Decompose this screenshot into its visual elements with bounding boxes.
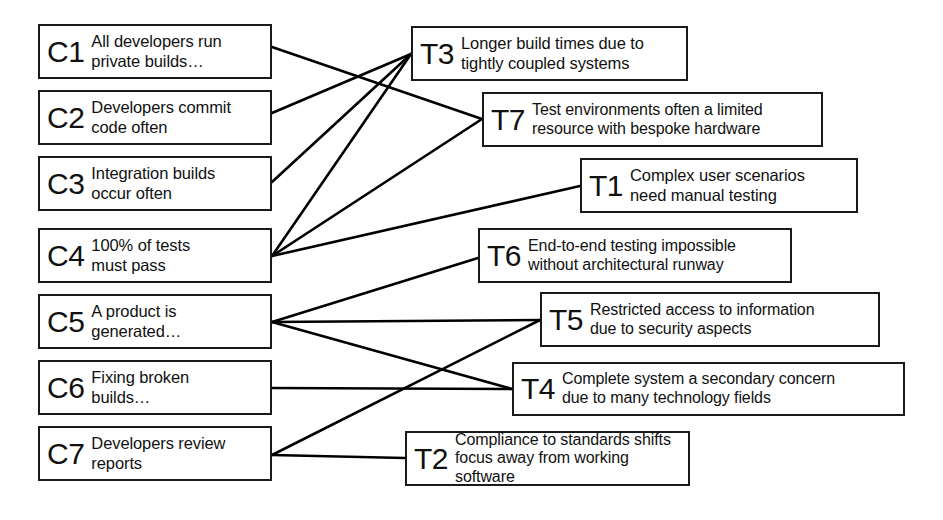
practice-node-c4[interactable]: C4100% of tests must pass [38,228,272,283]
node-code: T4 [521,374,562,404]
challenge-node-t7[interactable]: T7Test environments often a limited reso… [482,92,823,147]
practice-node-c6[interactable]: C6Fixing broken builds… [38,360,272,415]
node-code: T2 [414,444,455,474]
node-code: C5 [47,307,91,337]
challenge-node-t2[interactable]: T2Compliance to standards shifts focus a… [405,431,690,486]
edge-c2-to-t3 [272,54,411,113]
node-description: Fixing broken builds… [91,368,264,406]
node-code: C3 [47,169,91,199]
edge-c6-to-t4 [272,388,512,389]
edge-c3-to-t3 [272,54,411,182]
practice-node-c3[interactable]: C3Integration builds occur often [38,156,272,211]
practice-node-c1[interactable]: C1All developers run private builds… [38,24,272,79]
node-code: C7 [47,439,91,469]
challenge-node-t1[interactable]: T1Complex user scenarios need manual tes… [580,158,858,213]
node-code: C4 [47,241,91,271]
challenge-node-t4[interactable]: T4Complete system a secondary concern du… [512,362,905,416]
practice-node-c2[interactable]: C2Developers commit code often [38,90,272,145]
node-description: Developers commit code often [91,98,264,136]
edge-c4-to-t3 [272,54,411,256]
node-description: Test environments often a limited resour… [532,101,815,138]
node-code: T5 [549,305,590,335]
challenge-node-t3[interactable]: T3Longer build times due to tightly coup… [411,26,688,81]
node-description: Complex user scenarios need manual testi… [630,166,850,204]
node-code: T3 [420,39,461,69]
node-description: Compliance to standards shifts focus awa… [455,431,682,487]
node-code: C6 [47,373,91,403]
edge-c5-to-t5 [272,320,540,322]
node-description: A product is generated… [91,302,264,340]
edge-c7-to-t2 [272,455,405,458]
node-code: T6 [487,241,528,271]
edge-c5-to-t4 [272,322,512,389]
node-description: Developers review reports [91,434,264,472]
node-description: Integration builds occur often [91,164,264,202]
node-description: End-to-end testing impossible without ar… [528,237,784,274]
practice-node-c5[interactable]: C5A product is generated… [38,294,272,349]
node-description: 100% of tests must pass [91,236,264,274]
node-description: Longer build times due to tightly couple… [461,34,680,72]
node-code: T7 [491,105,532,135]
node-description: Restricted access to information due to … [590,301,872,338]
node-description: Complete system a secondary concern due … [562,370,897,407]
challenge-node-t6[interactable]: T6End-to-end testing impossible without … [478,228,792,283]
node-code: C1 [47,37,91,67]
diagram-canvas: C1All developers run private builds…C2De… [0,0,943,520]
challenge-node-t5[interactable]: T5Restricted access to information due t… [540,292,880,347]
edge-c5-to-t6 [272,258,478,322]
practice-node-c7[interactable]: C7Developers review reports [38,426,272,481]
node-code: T1 [589,171,630,201]
edge-c4-to-t7 [272,119,482,256]
node-code: C2 [47,103,91,133]
node-description: All developers run private builds… [91,32,264,70]
